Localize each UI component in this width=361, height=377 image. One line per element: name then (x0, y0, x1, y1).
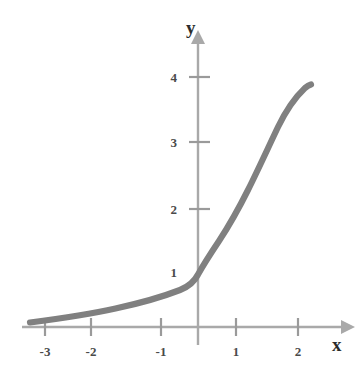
x-axis-title: x (332, 335, 342, 354)
x-tick-label--3: -3 (40, 345, 51, 358)
y-tick-label-3: 3 (155, 136, 177, 149)
y-axis-ticks (189, 77, 210, 209)
y-tick-label-4: 4 (155, 71, 177, 84)
y-tick-label-2: 2 (155, 203, 177, 216)
plot-canvas (0, 0, 361, 377)
y-axis-title: y (186, 18, 196, 37)
x-axis-arrowhead (341, 320, 355, 334)
x-tick-label-2: 2 (295, 345, 302, 358)
x-tick-label--2: -2 (86, 345, 97, 358)
x-tick-label--1: -1 (156, 345, 167, 358)
y-tick-label-1: 1 (155, 266, 177, 279)
exponential-function-graph: y x 4 3 2 1 -3 -2 -1 1 2 (0, 0, 361, 377)
x-tick-label-1: 1 (233, 345, 240, 358)
